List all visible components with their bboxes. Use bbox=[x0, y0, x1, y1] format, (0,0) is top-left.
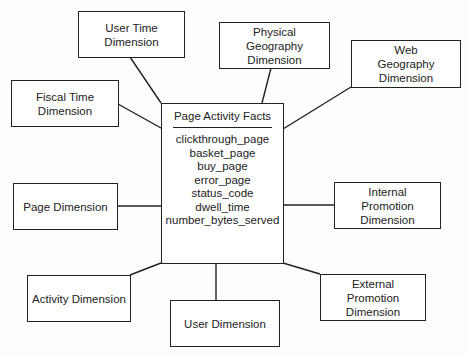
fact-attribute: buy_page bbox=[162, 160, 283, 174]
star-schema-diagram: Page Activity Facts clickthrough_page ba… bbox=[0, 0, 467, 355]
page-activity-facts-table: Page Activity Facts clickthrough_page ba… bbox=[161, 103, 284, 264]
fact-attribute: dwell_time bbox=[162, 201, 283, 215]
fact-attribute: number_bytes_served bbox=[162, 214, 283, 228]
fact-table-title: Page Activity Facts bbox=[162, 109, 283, 123]
internal-promotion-dimension: Internal Promotion Dimension bbox=[334, 182, 441, 229]
fact-attribute: status_code bbox=[162, 187, 283, 201]
page-dimension: Page Dimension bbox=[13, 183, 118, 230]
fact-attribute: error_page bbox=[162, 174, 283, 188]
user-dimension: User Dimension bbox=[170, 300, 280, 347]
user-time-dimension: User Time Dimension bbox=[78, 11, 185, 58]
external-promotion-dimension: External Promotion Dimension bbox=[320, 274, 426, 321]
title-underline bbox=[173, 127, 272, 128]
fact-attribute: basket_page bbox=[162, 147, 283, 161]
fact-attribute: clickthrough_page bbox=[162, 133, 283, 147]
physical-geography-dimension: Physical Geography Dimension bbox=[219, 22, 330, 69]
activity-dimension: Activity Dimension bbox=[27, 275, 131, 322]
fiscal-time-dimension: Fiscal Time Dimension bbox=[11, 80, 119, 127]
web-geography-dimension: Web Geography Dimension bbox=[351, 40, 461, 88]
